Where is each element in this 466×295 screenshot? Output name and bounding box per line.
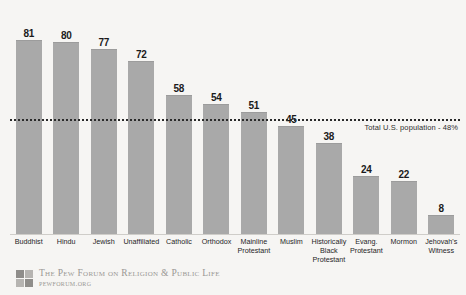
- footer-organization: The Pew Forum on Religion & Public Life: [39, 268, 220, 279]
- reference-line-total-us-population: [10, 119, 460, 121]
- footer-branding: The Pew Forum on Religion & Public Life …: [16, 268, 220, 289]
- category-label: Evang.Protestant: [348, 237, 385, 264]
- bar-value-label: 77: [98, 37, 109, 48]
- bar-value-label: 81: [23, 28, 34, 39]
- category-label: Unaffiliated: [122, 237, 160, 264]
- category-label: MainlineProtestant: [235, 237, 272, 264]
- category-label: Jewish: [85, 237, 122, 264]
- bar-value-label: 22: [398, 169, 409, 180]
- bar-value-label: 80: [61, 30, 72, 41]
- bar-value-label: 72: [136, 49, 147, 60]
- footer-text: The Pew Forum on Religion & Public Life …: [39, 268, 220, 289]
- x-axis-baseline: [10, 234, 460, 235]
- bar-value-label: 51: [248, 100, 259, 111]
- plot-area: 81807772585451453824228 Total U.S. popul…: [10, 6, 460, 234]
- bar: [353, 176, 379, 234]
- bar: [128, 61, 154, 234]
- category-label: Jehovah'sWitness: [423, 237, 460, 264]
- category-label: Muslim: [273, 237, 310, 264]
- bar: [53, 42, 79, 234]
- chart-container: 81807772585451453824228 Total U.S. popul…: [0, 0, 466, 295]
- bar-value-label: 24: [361, 164, 372, 175]
- footer-website: pewforum.org: [39, 279, 220, 289]
- bar: [391, 181, 417, 234]
- pew-forum-logo-icon: [16, 270, 33, 287]
- bar-value-label: 54: [211, 92, 222, 103]
- bar: [241, 112, 267, 234]
- bar: [166, 95, 192, 234]
- bar: [203, 104, 229, 234]
- bar: [16, 40, 42, 234]
- reference-line-label: Total U.S. population - 48%: [364, 123, 458, 132]
- x-axis-category-labels: BuddhistHinduJewishUnaffiliatedCatholicO…: [10, 237, 460, 264]
- bar-value-label: 38: [323, 131, 334, 142]
- category-label: Catholic: [160, 237, 197, 264]
- bar: [316, 143, 342, 234]
- category-label: Hindu: [47, 237, 84, 264]
- bar: [428, 215, 454, 234]
- bar-value-label: 8: [439, 203, 444, 214]
- category-label: Buddhist: [10, 237, 47, 264]
- category-label: HistoricallyBlackProtestant: [310, 237, 347, 264]
- bar-value-label: 58: [173, 83, 184, 94]
- bar: [91, 49, 117, 234]
- bar: [278, 126, 304, 234]
- category-label: Mormon: [385, 237, 422, 264]
- category-label: Orthodox: [198, 237, 235, 264]
